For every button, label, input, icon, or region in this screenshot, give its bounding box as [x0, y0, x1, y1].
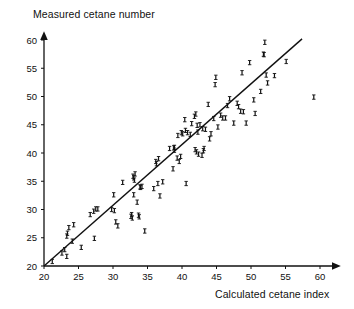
data-point [207, 102, 210, 107]
data-point [204, 127, 207, 132]
y-tick-label: 40 [26, 148, 37, 159]
data-point [232, 120, 235, 125]
data-point [248, 60, 251, 65]
data-point [284, 59, 287, 64]
data-point [213, 82, 216, 87]
data-point [96, 206, 99, 211]
y-tick-label: 35 [26, 176, 37, 187]
data-point [156, 181, 159, 186]
data-point [176, 133, 179, 138]
data-point [263, 40, 266, 45]
data-point [244, 120, 247, 125]
data-point [259, 89, 262, 94]
data-point [264, 72, 267, 77]
x-tick-label: 45 [211, 271, 222, 282]
data-point [116, 223, 119, 228]
data-point [175, 155, 178, 160]
y-tick-label: 55 [26, 63, 37, 74]
scatter-chart: Measured cetane number Calculated cetane… [0, 0, 354, 309]
data-point [228, 96, 231, 101]
data-point [66, 231, 69, 236]
x-tick-label: 30 [108, 271, 119, 282]
data-point [143, 228, 146, 233]
x-tick-label: 55 [280, 271, 291, 282]
data-point [240, 70, 243, 75]
data-point [200, 153, 203, 158]
data-point [157, 156, 160, 161]
data-point [67, 225, 70, 230]
data-point [112, 192, 115, 197]
data-point [135, 200, 138, 205]
data-point [189, 132, 192, 137]
data-points [51, 40, 316, 264]
x-tick-label: 40 [177, 271, 188, 282]
y-tick-label: 45 [26, 119, 37, 130]
y-tick-label: 25 [26, 232, 37, 243]
data-point [224, 115, 227, 120]
data-point [93, 236, 96, 241]
data-point [171, 166, 174, 171]
data-point [184, 181, 187, 186]
x-tick-label: 60 [315, 271, 326, 282]
x-tick-label: 20 [39, 271, 50, 282]
data-point [168, 146, 171, 151]
data-point [183, 117, 186, 122]
data-point [216, 124, 219, 129]
data-point [312, 94, 315, 99]
x-axis-ticks: 202530354045505560 [39, 266, 326, 282]
y-tick-label: 50 [26, 91, 37, 102]
data-point [89, 212, 92, 217]
data-point [252, 97, 255, 102]
y-tick-label: 30 [26, 204, 37, 215]
x-tick-label: 25 [73, 271, 84, 282]
data-point [190, 121, 193, 126]
data-point [152, 186, 155, 191]
data-point [65, 254, 68, 259]
data-point [121, 180, 124, 185]
data-point [273, 73, 276, 78]
data-point [178, 159, 181, 164]
data-point [161, 179, 164, 184]
data-point [209, 131, 212, 136]
data-point [132, 192, 135, 197]
data-point [60, 250, 63, 255]
x-tick-label: 35 [142, 271, 153, 282]
y-tick-label: 20 [26, 261, 37, 272]
data-point [71, 239, 74, 244]
y-axis-ticks: 202530354045505560 [26, 35, 44, 272]
data-point [242, 109, 245, 114]
y-tick-label: 60 [26, 35, 37, 46]
data-point [219, 113, 222, 118]
x-tick-label: 50 [246, 271, 257, 282]
data-point [110, 207, 113, 212]
data-point [80, 245, 83, 250]
data-point [237, 104, 240, 109]
data-point [208, 136, 211, 141]
data-point [266, 80, 269, 85]
data-point [214, 75, 217, 80]
data-point [51, 259, 54, 264]
data-point [158, 193, 161, 198]
data-point [179, 154, 182, 159]
plot-area: 202530354045505560 202530354045505560 [0, 0, 354, 309]
data-point [253, 111, 256, 116]
data-point [113, 208, 116, 213]
data-point [72, 222, 75, 227]
